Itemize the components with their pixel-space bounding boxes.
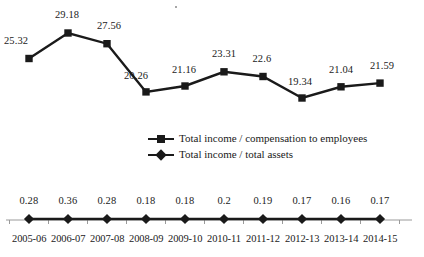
category-label: 2007-08	[90, 234, 124, 245]
data-point-marker	[181, 82, 188, 89]
category-label: 2009-10	[168, 234, 202, 245]
diamond-marker-icon	[148, 148, 174, 162]
data-point-marker	[336, 214, 346, 224]
data-value-label: 19.34	[288, 77, 312, 88]
data-value-label: 0.16	[332, 196, 351, 207]
data-value-label: 27.56	[97, 21, 121, 32]
data-point-marker	[376, 79, 383, 86]
data-point-marker	[25, 55, 32, 62]
category-label: 2011-12	[246, 234, 280, 245]
data-point-marker	[180, 214, 190, 224]
data-point-marker	[64, 29, 71, 36]
data-value-label: 0.18	[176, 196, 195, 207]
data-point-marker	[141, 214, 151, 224]
data-value-label: 0.18	[137, 196, 156, 207]
category-label: 2008-09	[129, 234, 163, 245]
data-value-label: 0.17	[371, 196, 390, 207]
chart-figure: 25.3229.1827.5620.2621.1623.3122.619.342…	[0, 0, 424, 257]
chart-canvas	[0, 0, 424, 257]
category-label: 2006-07	[51, 234, 85, 245]
legend-item-label: Total income / total assets	[179, 149, 293, 160]
data-point-marker	[102, 214, 112, 224]
data-value-label: 21.04	[329, 65, 353, 76]
data-value-label: 22.6	[253, 54, 272, 65]
legend-item-label: Total income / compensation to employees	[179, 133, 367, 144]
data-point-marker	[258, 214, 268, 224]
data-point-marker	[63, 214, 73, 224]
data-point-marker	[375, 214, 385, 224]
data-point-marker	[298, 94, 305, 101]
data-point-marker	[219, 214, 229, 224]
data-point-marker	[103, 40, 110, 47]
data-point-marker	[259, 73, 266, 80]
category-label: 2010-11	[207, 234, 241, 245]
data-value-label: 21.59	[370, 61, 394, 72]
category-label: 2005-06	[12, 234, 46, 245]
data-value-label: 25.32	[4, 36, 28, 47]
category-label: 2014-15	[363, 234, 397, 245]
data-point-marker	[220, 68, 227, 75]
data-value-label: 0.36	[59, 196, 78, 207]
data-value-label: 0.2	[218, 196, 231, 207]
data-point-marker	[24, 214, 34, 224]
data-point-marker	[297, 214, 307, 224]
category-label: 2012-13	[285, 234, 319, 245]
square-marker-icon	[148, 132, 174, 146]
data-value-label: 20.26	[124, 71, 148, 82]
data-value-label: 29.18	[55, 10, 79, 21]
data-value-label: 23.31	[212, 49, 236, 60]
data-value-label: 0.17	[293, 196, 312, 207]
data-point-marker	[142, 88, 149, 95]
legend-item-total-income-compensation[interactable]: Total income / compensation to employees	[148, 131, 410, 146]
data-value-label: 0.19	[254, 196, 273, 207]
data-value-label: 0.28	[20, 196, 39, 207]
legend-item-total-income-assets[interactable]: Total income / total assets	[148, 147, 410, 162]
data-point-marker	[337, 83, 344, 90]
chart-legend: Total income / compensation to employees…	[148, 131, 410, 163]
data-value-label: 21.16	[172, 65, 196, 76]
category-label: 2013-14	[324, 234, 358, 245]
data-value-label: 0.28	[98, 196, 117, 207]
